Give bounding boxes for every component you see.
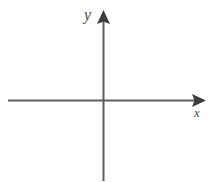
axes-drawing (0, 0, 213, 182)
x-axis-label: x (194, 106, 200, 119)
y-axis-label: y (84, 7, 91, 23)
coordinate-plane-figure: y x (0, 0, 213, 182)
